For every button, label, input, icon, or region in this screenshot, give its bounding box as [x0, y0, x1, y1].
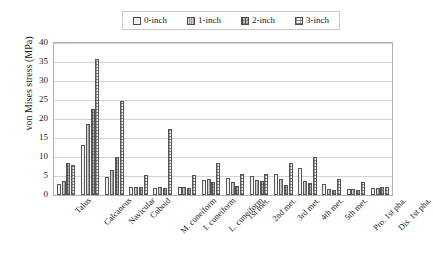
bar-group	[129, 43, 148, 195]
bar	[91, 109, 95, 195]
bar	[158, 187, 162, 195]
bar	[66, 163, 70, 195]
bar	[168, 129, 172, 195]
legend-label: 0-inch	[144, 16, 167, 25]
bar	[322, 184, 326, 195]
y-tick-label: 0	[22, 190, 48, 199]
bar-group	[57, 43, 76, 195]
bar	[192, 175, 196, 195]
bar	[139, 187, 143, 195]
legend-label: 3-inch	[306, 16, 329, 25]
bar	[371, 188, 375, 195]
y-tick-label: 40	[22, 38, 48, 47]
bar	[134, 187, 138, 195]
bar	[86, 124, 90, 195]
legend-item-1: 1-inch	[187, 16, 221, 25]
bar-group	[153, 43, 172, 195]
bar	[255, 180, 259, 195]
bar	[274, 174, 278, 195]
plot-area	[53, 42, 393, 196]
y-tick-label: 25	[22, 95, 48, 104]
y-tick-label: 5	[22, 171, 48, 180]
bar	[211, 182, 215, 195]
bar	[207, 179, 211, 195]
bar	[216, 163, 220, 195]
bar	[356, 190, 360, 195]
bar	[81, 145, 85, 195]
bar	[226, 178, 230, 195]
bar-group	[81, 43, 100, 195]
y-tick-label: 30	[22, 76, 48, 85]
bar	[163, 188, 167, 195]
bar	[187, 188, 191, 195]
bar	[110, 170, 114, 195]
bar	[120, 101, 124, 195]
bar	[347, 189, 351, 195]
bar	[182, 187, 186, 195]
y-tick-label: 15	[22, 133, 48, 142]
x-tick-label: 4th met.	[319, 196, 345, 222]
bar-group	[370, 43, 389, 195]
bar	[250, 176, 254, 195]
legend-item-3: 3-inch	[295, 16, 329, 25]
legend-label: 2-inch	[252, 16, 275, 25]
bar-group	[201, 43, 220, 195]
bar-groups	[54, 43, 392, 195]
bar	[115, 157, 119, 195]
bar	[308, 183, 312, 195]
bar	[240, 174, 244, 195]
bar	[153, 188, 157, 195]
bar	[289, 163, 293, 195]
bar-group	[322, 43, 341, 195]
bar	[303, 181, 307, 195]
bar-group	[346, 43, 365, 195]
bar-group	[298, 43, 317, 195]
y-tick-label: 10	[22, 152, 48, 161]
x-tick-label: 3rd met.	[295, 196, 321, 222]
legend-swatch-icon	[187, 17, 195, 25]
bar	[178, 187, 182, 195]
bar	[284, 185, 288, 195]
bar	[351, 189, 355, 195]
x-tick-label: 5th met.	[343, 196, 369, 222]
bar	[385, 187, 389, 195]
bar	[71, 165, 75, 195]
bar	[95, 59, 99, 195]
x-tick-label: Talus	[73, 196, 92, 215]
bar-group	[250, 43, 269, 195]
bar	[235, 186, 239, 195]
bar	[144, 175, 148, 195]
bar	[264, 174, 268, 195]
bar	[105, 177, 109, 195]
y-tick-label: 20	[22, 114, 48, 123]
bar	[57, 184, 61, 195]
bar-group	[177, 43, 196, 195]
bar	[380, 187, 384, 195]
bar	[202, 180, 206, 195]
bar	[231, 182, 235, 195]
x-tick-label: 1st met.	[246, 196, 271, 221]
bar	[361, 182, 365, 195]
y-tick-label: 35	[22, 57, 48, 66]
legend-swatch-icon	[295, 17, 303, 25]
legend-item-0: 0-inch	[133, 16, 167, 25]
legend-item-2: 2-inch	[241, 16, 275, 25]
bar	[313, 157, 317, 195]
legend-swatch-icon	[241, 17, 249, 25]
bar-group	[105, 43, 124, 195]
bar-group	[274, 43, 293, 195]
legend-label: 1-inch	[198, 16, 221, 25]
bar	[376, 188, 380, 195]
bar	[337, 179, 341, 195]
bar	[62, 181, 66, 195]
bar-group	[225, 43, 244, 195]
bar	[327, 189, 331, 195]
legend-swatch-icon	[133, 17, 141, 25]
bar	[279, 179, 283, 195]
bar	[298, 168, 302, 195]
y-axis-ticks: 0510152025303540	[22, 0, 48, 265]
bar	[332, 190, 336, 195]
bar	[129, 187, 133, 195]
bar	[260, 181, 264, 195]
